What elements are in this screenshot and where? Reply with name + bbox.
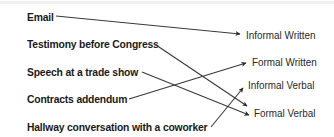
connector-arrows	[0, 0, 334, 137]
arrow-email-informal-written	[56, 16, 240, 34]
arrow-testimony-formal-verbal	[156, 45, 247, 106]
arrow-hallway-informal-verbal	[211, 88, 243, 127]
